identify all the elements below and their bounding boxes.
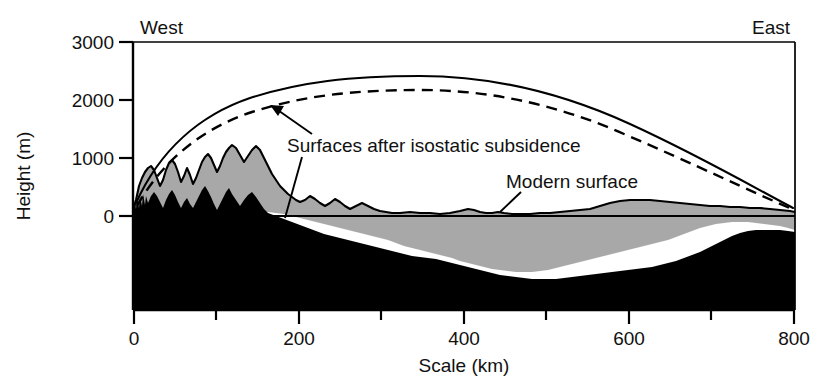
y-tick-label-1000: 1000 <box>72 148 114 169</box>
y-tick-label-2000: 2000 <box>72 90 114 111</box>
y-axis-ticks <box>119 42 133 216</box>
geological-cross-section-figure: 3000 2000 1000 0 0 200 400 600 800 Scale… <box>0 0 833 390</box>
annotation-modern-surface: Modern surface <box>506 171 638 192</box>
y-axis-title: Height (m) <box>13 132 34 221</box>
orientation-label-east: East <box>752 17 791 38</box>
x-axis-ticks <box>134 310 794 324</box>
x-tick-label-0: 0 <box>129 328 140 349</box>
y-tick-label-0: 0 <box>103 206 114 227</box>
x-tick-label-200: 200 <box>283 328 315 349</box>
x-tick-label-600: 600 <box>613 328 645 349</box>
orientation-label-west: West <box>140 17 184 38</box>
cross-section-chart: 3000 2000 1000 0 0 200 400 600 800 Scale… <box>0 0 833 390</box>
x-axis-title: Scale (km) <box>419 355 510 376</box>
x-tick-label-800: 800 <box>778 328 810 349</box>
annotation-isostatic-subsidence: Surfaces after isostatic subsidence <box>287 135 581 156</box>
y-tick-label-3000: 3000 <box>72 32 114 53</box>
x-tick-label-400: 400 <box>448 328 480 349</box>
